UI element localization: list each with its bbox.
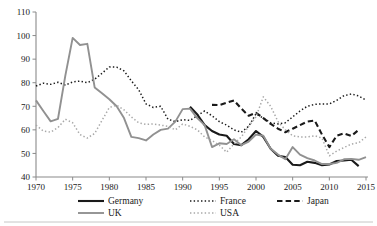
legend-label-uk: UK [108,208,122,218]
chart-figure: 405060708090100110 197019751980198519901… [0,0,377,226]
x-tick-label: 1990 [174,182,193,192]
x-tick-label: 1970 [27,182,46,192]
legend-label-germany: Germany [108,196,144,206]
x-tick-label: 1985 [137,182,156,192]
x-tick-label: 2005 [284,182,303,192]
y-tick-label: 40 [21,172,31,182]
x-tick-label: 2000 [247,182,266,192]
y-tick-label: 60 [21,125,31,135]
legend-label-usa: USA [220,208,239,218]
chart-background [0,0,377,226]
x-tick-label: 2010 [320,182,339,192]
y-tick-label: 90 [21,54,31,64]
y-tick-label: 80 [21,78,31,88]
y-tick-label: 100 [17,31,31,41]
line-chart: 405060708090100110 197019751980198519901… [0,0,377,226]
y-tick-label: 110 [17,7,31,17]
y-tick-label: 70 [21,102,31,112]
x-tick-label: 1995 [210,182,229,192]
y-tick-label: 50 [21,149,31,159]
x-tick-label: 2015 [357,182,376,192]
legend-label-france: France [220,196,246,206]
x-tick-label: 1975 [64,182,83,192]
x-tick-label: 1980 [100,182,119,192]
legend-label-japan: Japan [307,196,329,206]
